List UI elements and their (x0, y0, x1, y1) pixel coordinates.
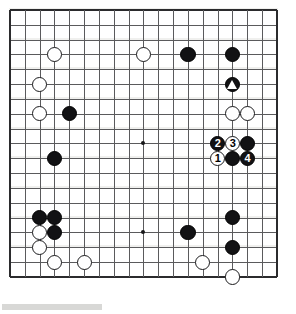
white-stone[interactable] (225, 106, 240, 121)
triangle-marker-icon (227, 80, 237, 89)
bottom-status-bar (0, 302, 296, 314)
grid-line-vertical (114, 10, 115, 277)
grid-line-vertical (158, 10, 159, 277)
black-stone[interactable] (225, 47, 240, 62)
grid-line-vertical (129, 10, 130, 277)
grid-line-vertical (9, 10, 11, 277)
black-stone[interactable] (240, 136, 255, 151)
white-stone[interactable] (32, 106, 47, 121)
white-stone[interactable] (240, 106, 255, 121)
white-stone[interactable] (32, 77, 47, 92)
black-stone[interactable] (62, 106, 77, 121)
move-number-label: 3 (225, 136, 240, 151)
grid-line-vertical (69, 10, 70, 277)
white-stone[interactable] (47, 255, 62, 270)
move-number-label: 4 (240, 151, 255, 166)
move-number-label: 1 (210, 151, 225, 166)
status-bar-fill (2, 304, 102, 310)
grid-line-vertical (99, 10, 100, 277)
black-stone[interactable] (225, 151, 240, 166)
grid-line-vertical (203, 10, 204, 277)
black-stone[interactable] (32, 210, 47, 225)
black-stone[interactable] (47, 225, 62, 240)
star-point (141, 141, 145, 145)
white-stone[interactable] (77, 255, 92, 270)
black-stone[interactable] (180, 47, 195, 62)
go-diagram-root: 2314 (0, 0, 296, 314)
grid-line-vertical (84, 10, 85, 277)
white-stone[interactable] (47, 47, 62, 62)
grid-line-vertical (173, 10, 174, 277)
white-stone[interactable] (32, 240, 47, 255)
grid-line-vertical (262, 10, 263, 277)
black-stone[interactable] (47, 151, 62, 166)
white-stone[interactable] (136, 47, 151, 62)
white-stone[interactable] (32, 225, 47, 240)
black-stone[interactable] (180, 225, 195, 240)
white-stone[interactable] (195, 255, 210, 270)
star-point (141, 230, 145, 234)
go-board[interactable]: 2314 (0, 0, 296, 300)
black-stone[interactable] (225, 240, 240, 255)
grid-line-vertical (276, 10, 278, 277)
white-stone[interactable] (225, 269, 240, 284)
move-number-label: 2 (210, 136, 225, 151)
grid-line-vertical (25, 10, 26, 277)
black-stone[interactable] (225, 210, 240, 225)
black-stone[interactable] (47, 210, 62, 225)
